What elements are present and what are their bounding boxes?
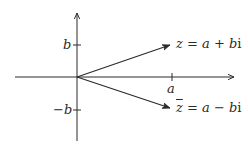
label-z-conjugate: z = a − bi	[176, 101, 241, 114]
label-z-re: a	[202, 36, 210, 51]
diagram-graphics	[0, 0, 248, 147]
tick-label-b: b	[63, 38, 71, 51]
label-zbar-op: −	[210, 100, 229, 115]
vector-z	[77, 45, 170, 77]
tick-label-a: a	[167, 82, 175, 95]
label-zbar-unit: i	[237, 100, 241, 115]
label-z-unit: i	[237, 36, 241, 51]
vector-z-conjugate	[77, 77, 170, 108]
minus-sign: −	[53, 102, 64, 117]
label-z: z = a + bi	[176, 37, 241, 50]
complex-plane-diagram: b −b a z = a + bi z = a − bi	[0, 0, 248, 147]
label-z-eq: =	[183, 36, 202, 51]
label-zbar-eq: =	[183, 100, 202, 115]
label-z-op: +	[210, 36, 229, 51]
tick-label-neg-b: −b	[53, 103, 72, 116]
label-zbar-re: a	[202, 100, 210, 115]
label-z-var: z	[176, 36, 183, 51]
tick-label-neg-b-var: b	[64, 102, 72, 117]
label-zbar-var: z	[176, 100, 183, 115]
